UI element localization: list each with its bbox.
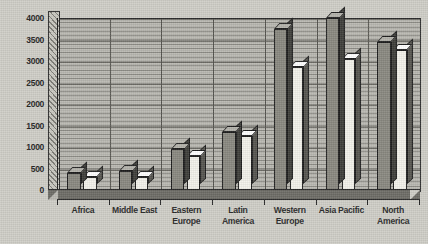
x-axis-tick-label-line: North	[361, 205, 425, 216]
bar-chart: (Millions) 05001000150020002500300035004…	[0, 0, 428, 244]
x-axis-tick-label: NorthAmerica	[361, 205, 425, 226]
x-axis-tick-label-line: Europe	[258, 216, 322, 227]
x-axis-tick-label-line: America	[361, 216, 425, 227]
x-axis-tick-labels: AfricaMiddle EastEasternEuropeLatinAmeri…	[0, 205, 428, 244]
